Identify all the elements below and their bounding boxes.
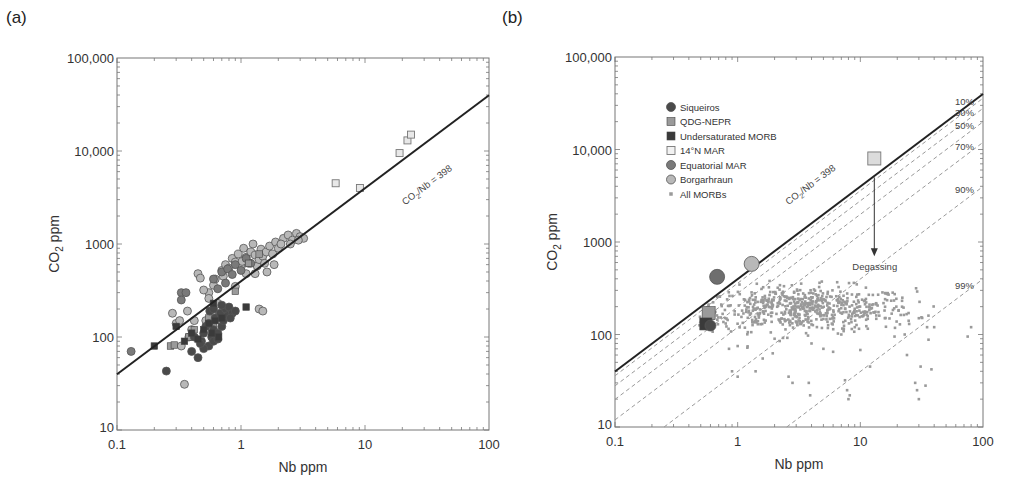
morb-data-point: [820, 318, 823, 321]
morb-data-point: [893, 299, 896, 302]
morb-data-point: [761, 323, 764, 326]
morb-data-point: [749, 297, 752, 300]
morb-data-point: [733, 310, 736, 313]
morb-data-point: [794, 315, 797, 318]
morb-data-point: [901, 296, 904, 299]
morb-data-point: [804, 296, 807, 299]
morb-data-point: [833, 314, 836, 317]
morb-data-point: [836, 305, 839, 308]
morb-data-point: [798, 317, 801, 320]
morb-data-point: [821, 280, 824, 283]
morb-data-point: [885, 325, 888, 328]
morb-data-point: [809, 302, 812, 305]
morb-data-point: [822, 314, 825, 317]
morb-data-point: [752, 306, 755, 309]
morb-data-point: [899, 314, 902, 317]
morb-data-point: [724, 317, 727, 320]
morb-data-point: [727, 291, 730, 294]
x-tick-label: 1: [734, 434, 741, 449]
morb-data-point: [844, 307, 847, 310]
morb-data-point: [817, 305, 820, 308]
morb-data-point: [849, 310, 852, 313]
morb-data-point: [754, 370, 757, 373]
morb-data-point: [822, 348, 825, 351]
morb-data-point: [858, 305, 861, 308]
morb-data-point: [927, 314, 930, 317]
morb-data-point: [843, 300, 846, 303]
morb-data-point: [742, 312, 745, 315]
morb-data-point: [760, 288, 763, 291]
morb-data-point: [843, 328, 846, 331]
morb-data-point: [785, 308, 788, 311]
morb-data-point: [738, 293, 741, 296]
morb-data-point: [872, 303, 875, 306]
legend-marker-icon: [667, 118, 675, 126]
morb-data-point: [782, 290, 785, 293]
morb-data-point: [751, 324, 754, 327]
morb-data-point: [837, 332, 840, 335]
morb-data-point: [781, 294, 784, 297]
morb-data-point: [764, 295, 767, 298]
morb-data-point: [859, 349, 862, 352]
morb-data-point: [730, 330, 733, 333]
morb-data-point: [827, 327, 830, 330]
morb-data-point: [822, 292, 825, 295]
morb-data-point: [796, 301, 799, 304]
morb-data-point: [787, 318, 790, 321]
degassing-percent-label: 70%: [955, 141, 975, 152]
morb-data-point: [876, 304, 879, 307]
morb-data-point: [864, 311, 867, 314]
morb-data-point: [854, 315, 857, 318]
morb-data-point: [807, 316, 810, 319]
morb-data-point: [802, 292, 805, 295]
data-point: [705, 320, 716, 331]
morb-data-point: [847, 316, 850, 319]
morb-data-point: [816, 326, 819, 329]
morb-data-point: [970, 326, 973, 329]
y-tick-label: 10: [598, 417, 612, 432]
morb-data-point: [883, 309, 886, 312]
morb-data-point: [768, 280, 771, 283]
morb-data-point: [869, 312, 872, 315]
morb-data-point: [810, 320, 813, 323]
morb-data-point: [756, 282, 759, 285]
morb-data-point: [868, 293, 871, 296]
morb-data-point: [884, 298, 887, 301]
morb-data-point: [729, 304, 732, 307]
morb-data-point: [724, 309, 727, 312]
morb-data-point: [903, 333, 906, 336]
morb-data-point: [867, 327, 870, 330]
morb-data-point: [809, 289, 812, 292]
morb-data-point: [846, 297, 849, 300]
x-axis-title: Nb ppm: [774, 456, 823, 472]
morb-data-point: [848, 314, 851, 317]
morb-data-point: [819, 311, 822, 314]
morb-data-point: [930, 368, 933, 371]
morb-data-point: [884, 305, 887, 308]
morb-data-point: [761, 357, 764, 360]
morb-data-point: [778, 340, 781, 343]
data-point: [868, 152, 881, 165]
morb-data-point: [751, 294, 754, 297]
morb-data-point: [794, 298, 797, 301]
morb-data-point: [895, 320, 898, 323]
legend-entry-label: Borgarhraun: [680, 174, 733, 185]
morb-data-point: [784, 328, 787, 331]
morb-data-point: [760, 301, 763, 304]
morb-data-point: [905, 313, 908, 316]
morb-data-point: [840, 307, 843, 310]
morb-data-point: [810, 296, 813, 299]
morb-data-point: [815, 300, 818, 303]
morb-data-point: [924, 384, 927, 387]
morb-data-point: [794, 305, 797, 308]
morb-data-point: [840, 333, 843, 336]
morb-data-point: [719, 295, 722, 298]
morb-data-point: [758, 316, 761, 319]
morb-data-point: [819, 290, 822, 293]
morb-data-point: [753, 292, 756, 295]
morb-data-point: [774, 292, 777, 295]
morb-data-point: [850, 328, 853, 331]
morb-data-point: [802, 324, 805, 327]
morb-data-point: [866, 311, 869, 314]
morb-data-point: [893, 307, 896, 310]
